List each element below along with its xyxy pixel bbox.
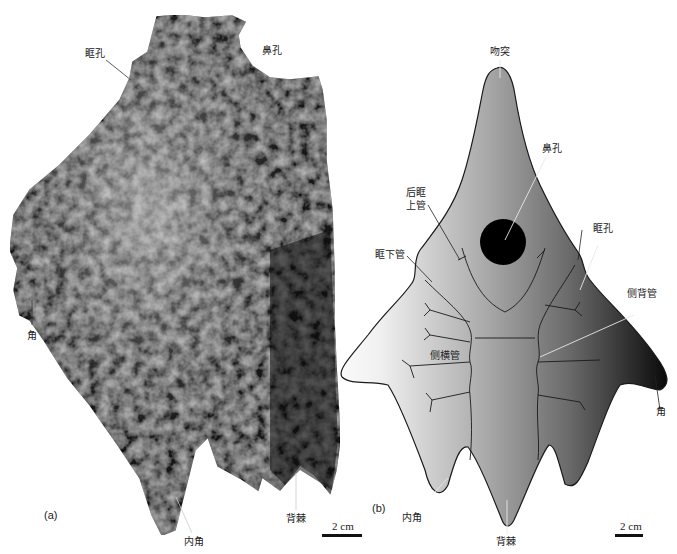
label-b-orbit: 眶孔 bbox=[593, 223, 613, 234]
panel-b: 吻突 鼻孔 后眶 上管 眶孔 眶下管 侧背管 侧横管 角 内角 背棘 (b) 2… bbox=[341, 45, 667, 547]
label-b-nasal-opening: 鼻孔 bbox=[542, 142, 562, 154]
panel-a: 眶孔 鼻孔 角 内角 背棘 (a) 2 cm bbox=[10, 15, 362, 547]
label-a-orbit: 眶孔 bbox=[85, 48, 105, 59]
figure-canvas: 眶孔 鼻孔 角 内角 背棘 (a) 2 cm bbox=[0, 0, 677, 554]
scale-bar-a-text: 2 cm bbox=[332, 520, 354, 532]
label-b-lateral-transverse-canal: 侧横管 bbox=[430, 349, 460, 361]
label-b-post-supraorbital-2: 上管 bbox=[406, 199, 426, 211]
label-a-dorsal-spine: 背棘 bbox=[286, 512, 306, 524]
label-a-inner-cornual: 内角 bbox=[184, 535, 204, 547]
headshield-outline bbox=[341, 67, 667, 526]
label-a-cornual-process: 角 bbox=[27, 330, 37, 341]
fossil-dark-band bbox=[270, 230, 338, 490]
scale-bar-b: 2 cm bbox=[615, 520, 643, 537]
label-b-post-supraorbital-1: 后眶 bbox=[406, 187, 426, 198]
label-a-nasal-opening: 鼻孔 bbox=[262, 44, 282, 56]
nasal-opening bbox=[480, 219, 526, 265]
label-b-cornual-process: 角 bbox=[656, 406, 666, 417]
label-b-dorsal-spine: 背棘 bbox=[496, 535, 516, 547]
label-b-inner-cornual: 内角 bbox=[402, 511, 422, 523]
scale-bar-a: 2 cm bbox=[322, 520, 362, 537]
scale-bar-b-text: 2 cm bbox=[620, 520, 642, 532]
label-b-rostral-process: 吻突 bbox=[490, 45, 510, 57]
panel-label-b: (b) bbox=[372, 502, 385, 514]
label-b-dorsal-lateral-canal: 侧背管 bbox=[627, 287, 657, 299]
label-b-infraorbital-canal: 眶下管 bbox=[375, 248, 405, 260]
panel-label-a: (a) bbox=[44, 509, 57, 521]
